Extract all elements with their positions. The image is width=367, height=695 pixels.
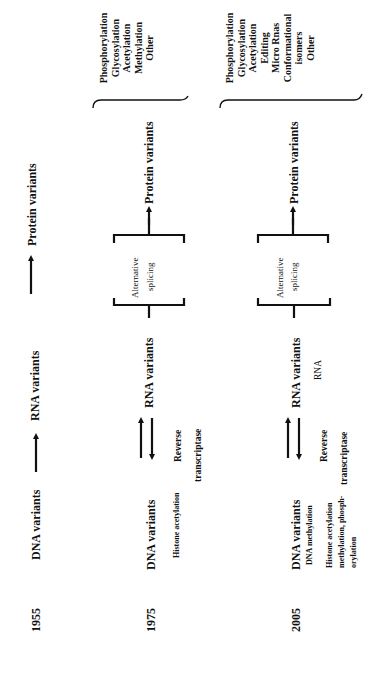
dna-note-2005-3: methylation, phosph-: [338, 496, 346, 568]
modification-item: Glycosylation: [236, 0, 248, 96]
rna-variants-2005: RNA variants: [290, 338, 302, 408]
dna-note-1975: Histone acetylation: [173, 492, 181, 558]
modification-item: Other: [305, 0, 317, 96]
year-2005: 2005: [290, 608, 302, 632]
modification-item: Phosphorylation: [224, 0, 236, 96]
modifications-list-1975: Phosphorylation Glycosylation Acetylatio…: [98, 0, 156, 96]
transcriptase-label-1975: transcriptase: [194, 429, 204, 482]
protein-variants-1975: Protein variants: [143, 121, 155, 204]
modification-item: Acetylation: [247, 0, 259, 96]
transcriptase-label-2005: transcriptase: [340, 432, 350, 485]
dna-note-2005-2: Histone acetylation: [326, 502, 334, 568]
splicing-label-2-2005: splicing: [290, 263, 299, 292]
year-1955: 1955: [30, 608, 42, 632]
modification-item: Editing: [259, 0, 271, 96]
splicing-label-1-1975: Alternative: [131, 258, 140, 298]
protein-variants-2005: Protein variants: [288, 121, 300, 204]
brace-modifications-2005: [220, 94, 362, 108]
modification-item: isomers: [293, 0, 305, 96]
dna-note-2005-1: DNA methylation: [306, 505, 314, 565]
modification-item: Other: [144, 0, 156, 96]
brace-modifications-1975: [93, 96, 188, 108]
dna-variants-1955: DNA variants: [30, 490, 42, 560]
diagram-graphics: [0, 0, 367, 695]
dna-variants-2005: DNA variants: [290, 500, 302, 570]
rna-note-2005: RNA: [314, 360, 324, 380]
dna-note-2005-4: orylation: [350, 537, 358, 568]
modification-item: Conformational: [282, 0, 294, 96]
year-1975: 1975: [145, 608, 157, 632]
modification-item: Methylation: [133, 0, 145, 96]
modification-item: Phosphorylation: [98, 0, 110, 96]
protein-variants-1955: Protein variants: [26, 163, 38, 246]
splicing-label-2-1975: splicing: [146, 263, 155, 292]
reverse-label-1975: Reverse: [174, 430, 184, 462]
splicing-bracket-bottom-1975: [114, 298, 184, 318]
modifications-list-2005: Phosphorylation Glycosylation Acetylatio…: [224, 0, 316, 96]
splicing-bracket-bottom-2005: [258, 298, 330, 318]
modification-item: Glycosylation: [110, 0, 122, 96]
dna-variants-1975: DNA variants: [145, 500, 157, 570]
reverse-label-2005: Reverse: [320, 430, 330, 462]
splicing-label-1-2005: Alternative: [276, 258, 285, 298]
modification-item: Micro Rnas: [270, 0, 282, 96]
modification-item: Acetylation: [121, 0, 133, 96]
rna-variants-1955: RNA variants: [29, 351, 41, 421]
rna-variants-1975: RNA variants: [143, 338, 155, 408]
